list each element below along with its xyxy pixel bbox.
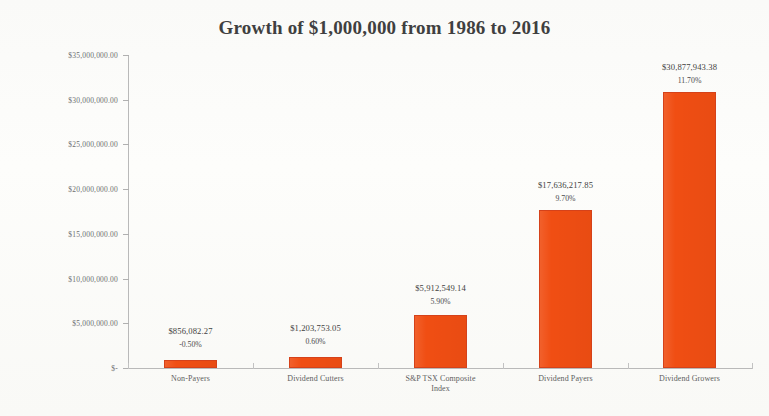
category-line: Dividend Growers [630,374,750,384]
bar-value-label: $17,636,217.85 [538,180,593,190]
y-axis-label: $20,000,000.00 [68,185,118,194]
y-axis-label: $35,000,000.00 [68,51,118,60]
bar-value-label: $856,082.27 [168,326,212,336]
category-line: Non-Payers [131,374,251,384]
bar-value-label: $1,203,753.05 [290,323,341,333]
chart-canvas [0,0,769,416]
y-axis-label: $30,000,000.00 [68,95,118,104]
y-tick-mark [123,100,129,101]
x-axis-separator [752,363,753,369]
y-tick-mark [123,279,129,280]
x-axis-category-label: Dividend Payers [506,374,626,384]
bar-percent-label: 5.90% [430,297,450,306]
x-axis-category-label: Dividend Growers [630,374,750,384]
y-tick-mark [123,55,129,56]
y-tick-mark [123,323,129,324]
y-axis-label: $10,000,000.00 [68,274,118,283]
y-tick-mark [123,144,129,145]
category-line: Dividend Payers [506,374,626,384]
y-axis-line [128,55,129,369]
x-axis-separator [378,363,379,369]
y-tick-mark [123,189,129,190]
bar-percent-label: 11.70% [678,76,702,85]
x-axis-category-label: S&P TSX Composite Index [381,374,501,394]
bar-value-label: $5,912,549.14 [415,283,466,293]
page-title: Growth of $1,000,000 from 1986 to 2016 [0,17,769,39]
x-axis-separator [503,363,504,369]
x-axis-separator [628,363,629,369]
x-axis-category-label: Dividend Cutters [256,374,376,384]
bar-sp-tsx-composite-index[interactable] [414,315,467,368]
bar-percent-label: 9.70% [555,194,575,203]
x-axis-separator [253,363,254,369]
bar-percent-label: 0.60% [305,337,325,346]
bar-dividend-cutters[interactable] [289,357,342,368]
x-axis-category-label: Non-Payers [131,374,251,384]
y-axis-label: $15,000,000.00 [68,229,118,238]
category-line: S&P TSX Composite [381,374,501,384]
category-line: Dividend Cutters [256,374,376,384]
y-axis-label: $25,000,000.00 [68,140,118,149]
y-axis-label: $5,000,000.00 [72,319,118,328]
bar-dividend-payers[interactable] [539,210,592,368]
bar-value-label: $30,877,943.38 [662,62,717,72]
x-axis-line [128,368,753,369]
bar-percent-label: -0.50% [179,340,202,349]
y-tick-mark [123,234,129,235]
category-line: Index [381,384,501,394]
y-axis-label: $- [111,364,118,373]
bar-dividend-growers[interactable] [663,92,716,368]
bar-non-payers[interactable] [164,360,217,368]
x-axis-separator [128,363,129,369]
